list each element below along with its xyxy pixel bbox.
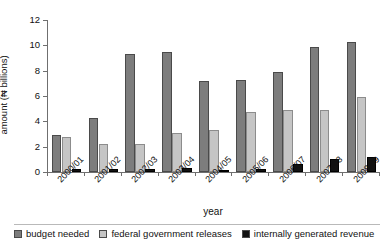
x-tick-mark [231,172,232,176]
y-axis-line [47,20,48,172]
bar-group [347,20,377,172]
bar-group [310,20,340,172]
legend-swatch-icon [242,230,250,238]
bar [236,80,246,172]
legend-item[interactable]: federal government releases [99,229,231,239]
y-tick-mark [43,121,47,122]
bar-group [236,20,266,172]
legend-item[interactable]: budget needed [14,229,89,239]
x-tick-mark [158,172,159,176]
bar-group [273,20,303,172]
legend-item[interactable]: internally generated revenue [242,229,374,239]
y-tick-label: 0 [35,167,40,177]
bar-chart: 024681012 2000/012001/022002/032003/0420… [0,0,392,244]
bar [357,97,367,172]
x-tick-mark [268,172,269,176]
x-axis-title: year [47,206,379,217]
bar [89,118,99,172]
bar [310,47,320,172]
bar [125,54,135,172]
legend-label: budget needed [26,229,89,239]
y-tick-label: 8 [35,66,40,76]
legend-label: federal government releases [111,229,231,239]
bar-group [162,20,192,172]
plot-area: 024681012 2000/012001/022002/032003/0420… [47,20,379,172]
x-tick-mark [121,172,122,176]
x-tick-mark [84,172,85,176]
y-tick-label: 2 [35,142,40,152]
bar-group [52,20,82,172]
legend-swatch-icon [14,230,22,238]
y-tick-label: 12 [29,15,40,25]
bar [199,81,209,172]
bar-group [125,20,155,172]
y-axis-title: amount (₦ billions) [0,20,9,170]
x-tick-mark [379,172,380,176]
bar-group [199,20,229,172]
chart-legend: budget neededfederal government releases… [14,224,380,240]
y-tick-mark [43,147,47,148]
bar [52,135,62,172]
y-tick-label: 10 [29,41,40,51]
y-tick-label: 6 [35,91,40,101]
y-tick-mark [43,45,47,46]
bar [347,42,357,172]
x-tick-mark [47,172,48,176]
legend-swatch-icon [99,230,107,238]
x-tick-mark [195,172,196,176]
y-tick-mark [43,71,47,72]
y-tick-mark [43,96,47,97]
bar-group [89,20,119,172]
y-tick-label: 4 [35,117,40,127]
legend-label: internally generated revenue [254,229,374,239]
x-tick-mark [305,172,306,176]
x-tick-mark [342,172,343,176]
bar [273,72,283,172]
y-tick-mark [43,20,47,21]
bar [162,52,172,172]
